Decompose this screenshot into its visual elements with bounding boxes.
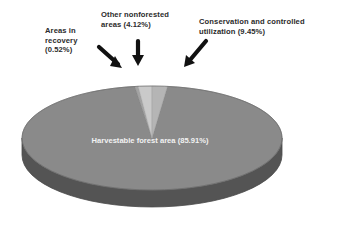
- slice-label-harvestable-forest-area: Harvestable forest area (85.91%): [0, 136, 300, 145]
- arrow-conservation: [184, 41, 206, 67]
- pie-chart-figure: Areas in recovery (0.52%) Other nonfores…: [0, 0, 338, 230]
- callout-label-conservation-and-controlled-utilization: Conservation and controlled utilization …: [199, 17, 335, 36]
- callout-label-areas-in-recovery: Areas in recovery (0.52%): [45, 26, 103, 55]
- callout-label-other-nonforested-areas: Other nonforested areas (4.12%): [101, 10, 185, 29]
- arrow-other-nonforested: [132, 41, 144, 66]
